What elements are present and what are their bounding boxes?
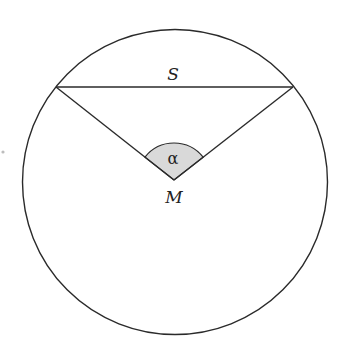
- angle-label: α: [168, 149, 179, 168]
- stray-dot: [1, 150, 4, 153]
- radius-right: [174, 87, 293, 180]
- center-label: M: [164, 187, 183, 207]
- chord-label: S: [167, 64, 179, 84]
- radius-left: [56, 87, 174, 180]
- circle-diagram: S α M: [0, 0, 351, 355]
